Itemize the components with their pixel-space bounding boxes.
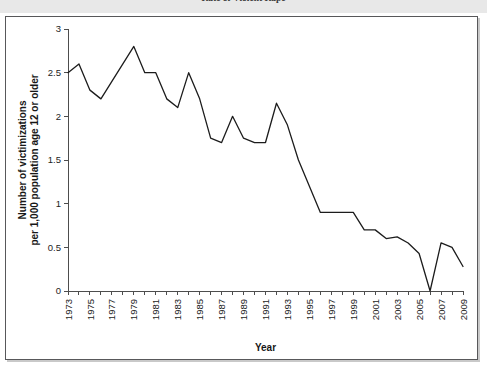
x-tick-label: 1997	[326, 299, 337, 320]
y-axis: 00.511.522.53	[48, 23, 68, 296]
x-tick-label: 1993	[282, 299, 293, 320]
y-tick-label: 0.5	[48, 242, 61, 253]
x-axis: 1973197519771979198119831985198719891991…	[63, 291, 469, 320]
x-tick-label: 1987	[216, 299, 227, 320]
line-chart: 00.511.522.53 19731975197719791981198319…	[6, 17, 479, 361]
y-axis-title: Number of victimizationsper 1,000 popula…	[17, 74, 40, 245]
y-tick-label: 3	[56, 23, 61, 34]
x-tick-label: 1973	[63, 299, 74, 320]
figure-box: 00.511.522.53 19731975197719791981198319…	[5, 16, 478, 360]
y-tick-label: 2	[56, 111, 61, 122]
y-tick-label: 1	[56, 198, 61, 209]
y-tick-label: 1.5	[48, 154, 61, 165]
x-axis-title: Year	[255, 342, 276, 353]
x-tick-label: 1989	[238, 299, 249, 320]
x-tick-label: 1983	[172, 299, 183, 320]
x-tick-label: 1977	[106, 299, 117, 320]
x-tick-label: 1995	[304, 299, 315, 320]
x-tick-label: 1991	[260, 299, 271, 320]
x-tick-label: 2001	[370, 299, 381, 320]
data-series-line	[68, 46, 463, 291]
page-header-title: Rate of Violent Rape	[0, 0, 487, 3]
x-tick-label: 1985	[194, 299, 205, 320]
x-tick-label: 1999	[348, 299, 359, 320]
y-tick-label: 2.5	[48, 67, 61, 78]
x-tick-label: 1975	[85, 299, 96, 320]
x-tick-label: 1981	[150, 299, 161, 320]
x-tick-label: 2009	[458, 299, 469, 320]
x-tick-label: 2003	[392, 299, 403, 320]
chart-plot-area: 00.511.522.53 19731975197719791981198319…	[6, 17, 479, 361]
x-tick-label: 1979	[128, 299, 139, 320]
y-tick-label: 0	[56, 285, 61, 296]
page-header-strip: Rate of Violent Rape	[0, 0, 487, 13]
x-tick-label: 2005	[414, 299, 425, 320]
y-axis-title-line: Number of victimizations	[17, 100, 28, 219]
y-axis-title-line: per 1,000 population age 12 or older	[29, 74, 40, 245]
x-tick-label: 2007	[436, 299, 447, 320]
